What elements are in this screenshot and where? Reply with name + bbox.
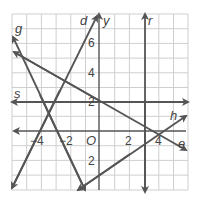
y-tick-neg2: 2	[88, 154, 95, 168]
label-g: g	[15, 21, 23, 36]
origin-label: O	[86, 133, 96, 148]
x-tick-2: 2	[125, 134, 132, 148]
label-e: e	[178, 136, 185, 151]
x-tick-neg2: −2	[59, 134, 73, 148]
label-h: h	[170, 108, 177, 123]
label-d: d	[80, 13, 88, 28]
label-y: y	[102, 13, 111, 28]
coordinate-graph: g d y r s h e O 6 4 2 2 −4 −2 2 4	[0, 0, 204, 205]
y-tick-4: 4	[88, 66, 95, 80]
x-tick-neg4: −4	[30, 134, 44, 148]
x-tick-4: 4	[155, 134, 162, 148]
y-tick-6: 6	[88, 36, 95, 50]
label-s: s	[14, 86, 21, 101]
y-tick-2: 2	[88, 95, 95, 109]
label-r: r	[148, 13, 153, 28]
